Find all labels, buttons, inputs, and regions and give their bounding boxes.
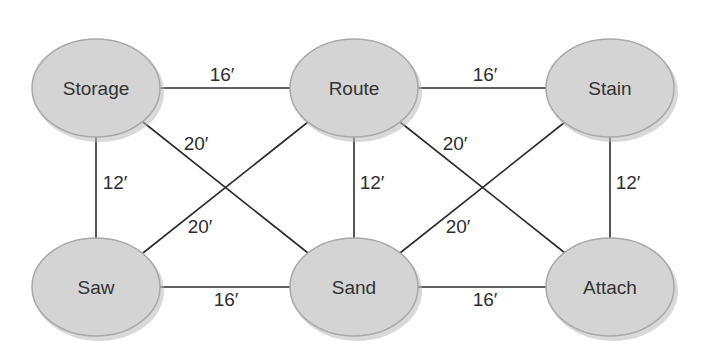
edge-label-route-saw: 20′ bbox=[188, 216, 213, 237]
edge-label-storage-sand: 20′ bbox=[184, 133, 209, 154]
edge-label-route-sand: 12′ bbox=[360, 172, 385, 193]
node-attach: Attach bbox=[546, 238, 678, 341]
node-stain: Stain bbox=[546, 39, 678, 142]
node-label-storage: Storage bbox=[63, 78, 130, 99]
node-label-route: Route bbox=[329, 78, 380, 99]
node-label-attach: Attach bbox=[583, 277, 637, 298]
edge-label-storage-saw: 12′ bbox=[103, 172, 128, 193]
node-label-stain: Stain bbox=[588, 78, 631, 99]
node-label-sand: Sand bbox=[332, 277, 376, 298]
node-label-saw: Saw bbox=[78, 277, 115, 298]
edge-label-stain-sand: 20′ bbox=[446, 216, 471, 237]
node-sand: Sand bbox=[290, 238, 422, 341]
edge-label-route-stain: 16′ bbox=[473, 64, 498, 85]
edge-label-route-attach: 20′ bbox=[443, 133, 468, 154]
edge-label-saw-sand: 16′ bbox=[214, 289, 239, 310]
edge-label-stain-attach: 12′ bbox=[616, 172, 641, 193]
workflow-graph-diagram: 16′ 16′ 16′ 16′ 12′ 12′ 12′ 20′ 20′ 20′ … bbox=[0, 0, 704, 357]
edge-label-sand-attach: 16′ bbox=[473, 289, 498, 310]
node-route: Route bbox=[290, 39, 422, 142]
edge-label-storage-route: 16′ bbox=[210, 64, 235, 85]
node-storage: Storage bbox=[32, 39, 164, 142]
node-saw: Saw bbox=[32, 238, 164, 341]
